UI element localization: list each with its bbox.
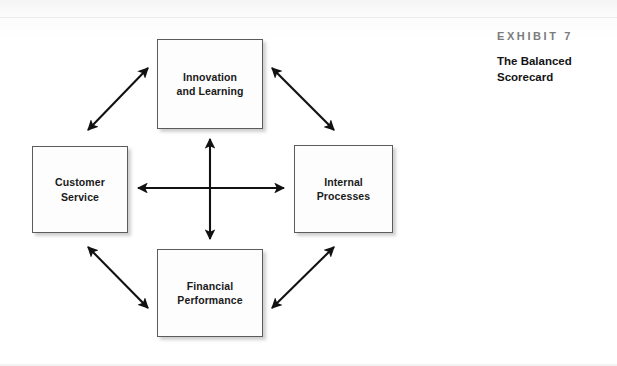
page-top-divider bbox=[0, 17, 617, 18]
node-financial-performance: Financial Performance bbox=[157, 249, 263, 337]
node-innovation-label: Innovation and Learning bbox=[176, 70, 243, 98]
connector-innovation-customer bbox=[88, 68, 148, 130]
connector-innovation-internal bbox=[272, 68, 334, 130]
node-customer-service: Customer Service bbox=[32, 146, 128, 233]
node-internal-processes: Internal Processes bbox=[294, 145, 393, 233]
exhibit-caption: EXHIBIT 7 The Balanced Scorecard bbox=[497, 30, 609, 86]
exhibit-number: EXHIBIT 7 bbox=[497, 30, 609, 42]
node-financial-label: Financial Performance bbox=[177, 279, 242, 307]
connector-internal-financial bbox=[272, 247, 334, 308]
node-internal-label: Internal Processes bbox=[317, 175, 370, 203]
connector-customer-financial bbox=[88, 247, 148, 308]
node-innovation-and-learning: Innovation and Learning bbox=[157, 39, 263, 129]
exhibit-title: The Balanced Scorecard bbox=[497, 53, 609, 86]
exhibit-page: Innovation and Learning Customer Service… bbox=[0, 0, 617, 366]
node-customer-label: Customer Service bbox=[55, 175, 105, 203]
